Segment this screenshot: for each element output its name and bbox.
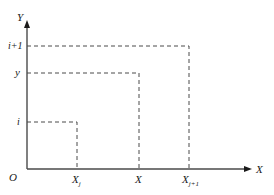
origin-label: O [9,171,17,183]
dashed-box-i [27,122,77,169]
x-tick-label-xj: Xj [71,173,81,188]
coordinate-diagram: Y X O i+1 y i Xj X Xj+1 [0,0,274,195]
x-axis-arrow-icon [244,166,252,172]
x-tick-label-xj1: Xj+1 [181,173,199,188]
y-axis-label: Y [17,11,25,23]
y-axis-arrow-icon [24,20,30,28]
y-tick-label-i-plus-1: i+1 [8,40,23,51]
x-axis-label: X [255,163,264,175]
dashed-box-i-plus-1 [27,46,189,169]
y-tick-label-y: y [14,66,20,78]
dashed-box-y [27,73,139,169]
y-tick-label-i: i [17,116,20,127]
x-tick-label-x: X [134,173,143,185]
